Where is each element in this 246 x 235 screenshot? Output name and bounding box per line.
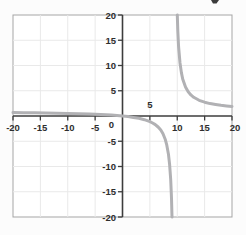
y-tick-label-10: 10	[105, 60, 116, 71]
x-tick-label-20: 20	[230, 122, 241, 133]
x-tick-label-10: 10	[172, 122, 183, 133]
x-tick-label-5: 5	[147, 99, 153, 110]
function-plot-canvas: -20-15-10-5051015202015105-5-10-15-20	[0, 0, 246, 235]
cropped-text-fragment	[211, 0, 219, 4]
y-tick-label-5: 5	[111, 85, 117, 96]
x-tick-label-0: 0	[109, 119, 114, 130]
x-tick-label--10: -10	[61, 122, 75, 133]
function-graph-figure: -20-15-10-5051015202015105-5-10-15-20	[0, 0, 246, 235]
y-tick-label--5: -5	[108, 136, 117, 147]
y-tick-label-15: 15	[105, 35, 116, 46]
x-tick-label-15: 15	[199, 122, 210, 133]
x-tick-label--20: -20	[6, 122, 20, 133]
y-tick-label--10: -10	[102, 161, 116, 172]
y-tick-label--15: -15	[102, 186, 116, 197]
x-tick-label--15: -15	[34, 122, 48, 133]
y-tick-label-20: 20	[105, 10, 116, 21]
y-tick-label--20: -20	[102, 212, 116, 223]
x-tick-label--5: -5	[91, 122, 100, 133]
